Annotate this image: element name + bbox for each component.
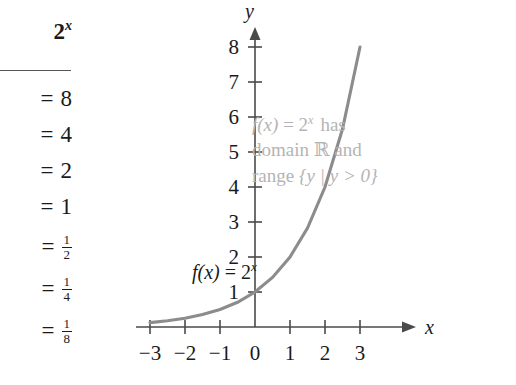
table-header-base: 2 xyxy=(54,19,66,44)
table-row: =8 xyxy=(0,86,72,112)
value-table: 2x =8 =4 =2 =1 =12 =14 =18 xyxy=(0,0,112,385)
table-row: =14 xyxy=(0,276,72,305)
table-header-rule xyxy=(0,70,71,71)
annotation-line-3: range {y | y > 0} xyxy=(252,163,412,188)
domain-range-annotation: f(x) = 2xhas domain ℝ and range {y | y >… xyxy=(252,112,412,188)
table-row: =18 xyxy=(0,318,72,347)
fraction-denominator: 4 xyxy=(62,289,73,304)
table-header-exponent: x xyxy=(65,18,72,33)
coordinate-plot: −3 −2 −1 0 1 2 3 1 2 3 4 5 6 7 8 x y xyxy=(112,0,516,385)
row-value: 2 xyxy=(61,158,73,183)
y-tick-label: 3 xyxy=(229,210,240,234)
row-equals: = xyxy=(41,122,54,147)
table-row: =1 xyxy=(0,194,72,220)
x-tick-label: 3 xyxy=(355,341,366,365)
x-tick-label: 0 xyxy=(250,341,261,365)
y-axis-label: y xyxy=(243,0,254,23)
y-tick-label: 5 xyxy=(229,140,240,164)
annotation-exponent: x xyxy=(308,113,313,127)
row-equals: = xyxy=(42,318,55,343)
y-tick-label: 6 xyxy=(229,105,240,129)
annotation-line-2: domain ℝ and xyxy=(252,137,412,162)
y-tick-label: 4 xyxy=(229,175,240,199)
annotation-arg: (x) xyxy=(257,114,278,135)
x-tick-label: −2 xyxy=(174,341,196,365)
curve-equation-label: f(x) = 2x xyxy=(192,259,257,284)
row-value-fraction: 14 xyxy=(62,275,73,304)
row-value-fraction: 18 xyxy=(62,317,73,346)
curve-label-exponent: x xyxy=(251,259,257,274)
annotation-has: has xyxy=(320,114,345,135)
table-row: =4 xyxy=(0,122,72,148)
annotation-range-word: range xyxy=(252,165,299,186)
row-equals: = xyxy=(41,194,54,219)
fraction-numerator: 1 xyxy=(62,233,73,247)
fraction-denominator: 8 xyxy=(62,331,73,346)
row-value: 1 xyxy=(61,194,73,219)
y-tick-label: 8 xyxy=(229,35,240,59)
fraction-denominator: 2 xyxy=(62,247,73,262)
fraction-numerator: 1 xyxy=(62,317,73,331)
x-axis-arrow xyxy=(402,322,416,333)
curve-label-arg: (x) xyxy=(198,261,220,283)
y-axis-arrow xyxy=(250,27,261,40)
row-value: 4 xyxy=(61,122,73,147)
figure-exponential-graph: 2x =8 =4 =2 =1 =12 =14 =18 xyxy=(0,0,516,385)
x-tick-label: −1 xyxy=(209,341,231,365)
annotation-equals: = 2 xyxy=(278,114,308,135)
row-equals: = xyxy=(41,86,54,111)
table-row: =12 xyxy=(0,234,72,263)
x-axis-label: x xyxy=(424,316,434,338)
row-value: 8 xyxy=(61,86,73,111)
row-value-fraction: 12 xyxy=(62,233,73,262)
row-equals: = xyxy=(42,234,55,259)
x-tick-label: −3 xyxy=(139,341,161,365)
x-tick-label: 1 xyxy=(285,341,296,365)
row-equals: = xyxy=(42,276,55,301)
y-tick-label: 7 xyxy=(229,70,240,94)
row-equals: = xyxy=(41,158,54,183)
fraction-numerator: 1 xyxy=(62,275,73,289)
table-row: =2 xyxy=(0,158,72,184)
curve-label-equals: = 2 xyxy=(220,261,251,283)
x-tick-label: 2 xyxy=(320,341,331,365)
annotation-range-set: {y | y > 0} xyxy=(299,165,378,186)
annotation-line-1: f(x) = 2xhas xyxy=(252,112,412,137)
table-header-cell: 2x xyxy=(0,18,72,54)
